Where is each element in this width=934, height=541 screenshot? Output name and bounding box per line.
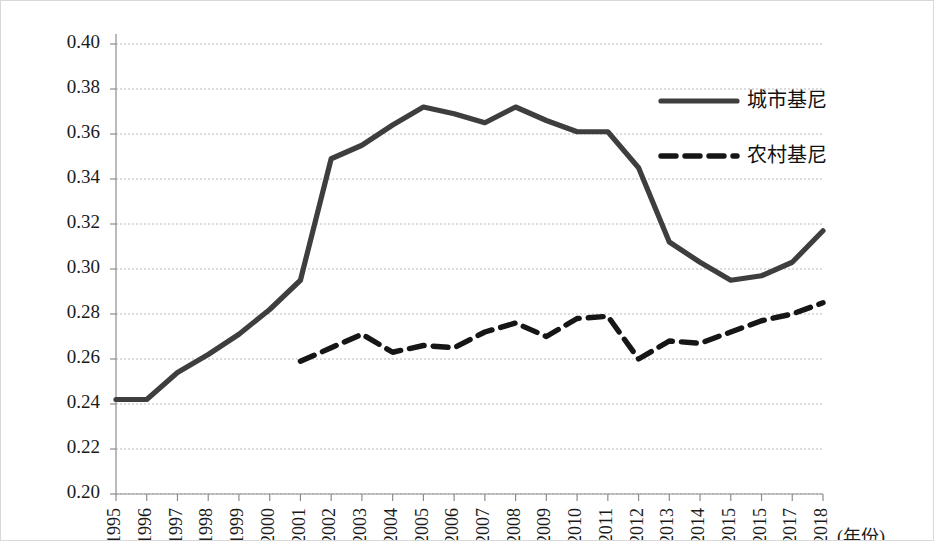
x-axis-tick-label: 2006 xyxy=(442,508,462,541)
x-axis-tick-label: 2014 xyxy=(688,508,708,541)
y-axis-tick-labels: 0.400.380.360.340.320.300.280.260.240.22… xyxy=(67,31,101,502)
x-axis-tickmarks xyxy=(116,494,823,501)
x-axis-tick-label: 2008 xyxy=(504,508,524,541)
chart-figure: 0.400.380.360.340.320.300.280.260.240.22… xyxy=(0,0,934,541)
x-axis-tick-label: 2015 xyxy=(719,508,739,541)
x-axis-tick-label: 1998 xyxy=(196,508,216,541)
x-axis-tick-label: 2000 xyxy=(258,508,278,541)
x-axis-tick-label: 2009 xyxy=(534,508,554,541)
x-axis-tick-label: 2012 xyxy=(627,508,647,541)
x-axis-tick-label: 2015 xyxy=(750,508,770,541)
y-axis-tick-label: 0.28 xyxy=(67,301,100,322)
x-axis-tick-label: 1999 xyxy=(227,508,247,541)
x-axis-tick-label: 2010 xyxy=(565,508,585,541)
y-axis-tick-label: 0.34 xyxy=(67,166,101,187)
series-line-urban-gini xyxy=(116,107,823,400)
x-axis-unit-label: (年份) xyxy=(837,527,885,541)
x-axis-tick-label: 2017 xyxy=(780,508,800,541)
y-axis-tick-label: 0.26 xyxy=(67,346,100,367)
x-axis-tick-label: 2013 xyxy=(657,508,677,541)
legend-label-urban-gini: 城市基尼 xyxy=(747,89,827,111)
gini-line-chart: 0.400.380.360.340.320.300.280.260.240.22… xyxy=(1,1,934,541)
y-axis-tick-label: 0.38 xyxy=(67,76,100,97)
legend-label-rural-gini: 农村基尼 xyxy=(747,144,827,166)
y-axis-tick-label: 0.40 xyxy=(67,31,100,52)
x-axis-tick-labels: 1995199619971998199920002001200220032004… xyxy=(104,508,831,541)
y-axis-tickmarks xyxy=(110,44,116,494)
y-axis-tick-label: 0.30 xyxy=(67,256,100,277)
x-axis-tick-label: 2005 xyxy=(412,508,432,541)
x-axis-tick-label: 1995 xyxy=(104,508,124,541)
y-axis-tick-label: 0.20 xyxy=(67,481,100,502)
x-axis-tick-label: 2018 xyxy=(811,508,831,541)
y-axis-tick-label: 0.24 xyxy=(67,391,101,412)
x-axis-tick-label: 2011 xyxy=(596,508,616,541)
series-line-rural-gini xyxy=(300,303,823,362)
x-axis-tick-label: 2004 xyxy=(381,508,401,541)
y-axis-tick-label: 0.32 xyxy=(67,211,100,232)
x-axis-tick-label: 2003 xyxy=(350,508,370,541)
x-axis-tick-label: 2007 xyxy=(473,508,493,541)
gridlines xyxy=(116,44,823,494)
x-axis-tick-label: 2001 xyxy=(289,508,309,541)
y-axis-tick-label: 0.36 xyxy=(67,121,100,142)
x-axis-tick-label: 1996 xyxy=(135,508,155,541)
y-axis-tick-label: 0.22 xyxy=(67,436,100,457)
x-axis-tick-label: 1997 xyxy=(166,508,186,541)
x-axis-tick-label: 2002 xyxy=(319,508,339,541)
